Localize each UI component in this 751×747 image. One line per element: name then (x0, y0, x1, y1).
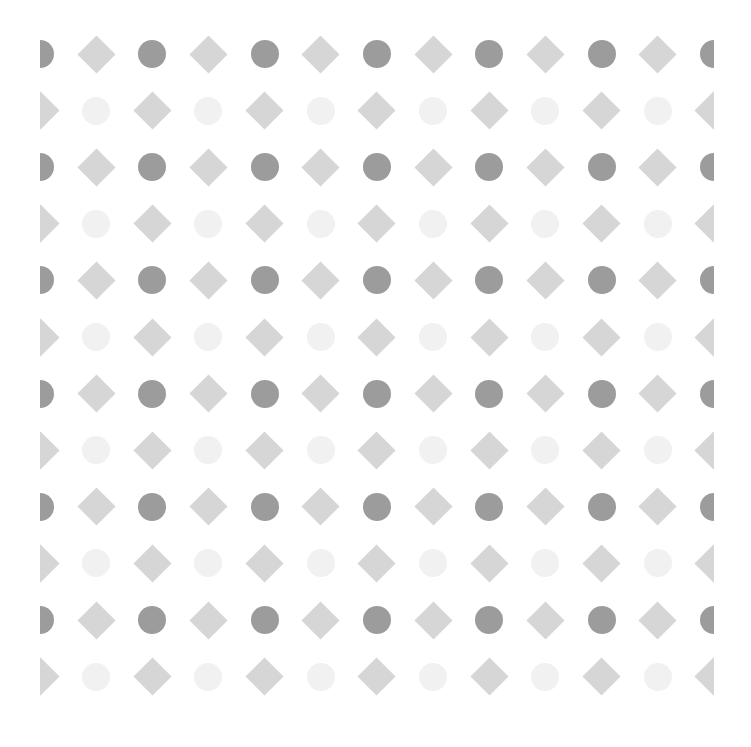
diamond-shape (358, 318, 396, 356)
faint-circle-shape (531, 323, 559, 351)
diamond-shape (40, 431, 59, 469)
diamond-shape (639, 375, 677, 413)
diamond-shape (358, 544, 396, 582)
diamond-shape (358, 205, 396, 243)
dark-circle-shape (475, 153, 503, 181)
diamond-shape (526, 601, 564, 639)
diamond-shape (639, 488, 677, 526)
faint-circle-shape (307, 210, 335, 238)
faint-circle-shape (307, 663, 335, 691)
diamond-shape (582, 318, 620, 356)
dark-circle-shape (251, 493, 279, 521)
diamond-shape (695, 658, 714, 696)
faint-circle-shape (531, 549, 559, 577)
diamond-shape (526, 261, 564, 299)
faint-circle-shape (644, 97, 672, 125)
diamond-shape (189, 601, 227, 639)
diamond-shape (302, 148, 340, 186)
diamond-shape (695, 92, 714, 130)
faint-circle-shape (82, 323, 110, 351)
dark-circle-shape (700, 40, 714, 68)
dark-circle-shape (588, 493, 616, 521)
faint-circle-shape (419, 436, 447, 464)
diamond-shape (582, 544, 620, 582)
dark-circle-shape (40, 606, 54, 634)
faint-circle-shape (307, 436, 335, 464)
diamond-shape (695, 205, 714, 243)
diamond-shape (246, 658, 284, 696)
diamond-shape (470, 92, 508, 130)
dark-circle-shape (138, 266, 166, 294)
dark-circle-shape (363, 266, 391, 294)
diamond-shape (414, 36, 452, 73)
diamond-shape (358, 431, 396, 469)
faint-circle-shape (82, 663, 110, 691)
diamond-shape (77, 375, 115, 413)
diamond-shape (414, 261, 452, 299)
dark-circle-shape (588, 606, 616, 634)
diamond-shape (526, 148, 564, 186)
dark-circle-shape (138, 153, 166, 181)
faint-circle-shape (531, 210, 559, 238)
diamond-shape (189, 261, 227, 299)
dark-circle-shape (588, 380, 616, 408)
diamond-shape (302, 488, 340, 526)
faint-circle-shape (419, 663, 447, 691)
diamond-shape (470, 431, 508, 469)
dark-circle-shape (475, 606, 503, 634)
dark-circle-shape (40, 493, 54, 521)
diamond-shape (246, 544, 284, 582)
faint-circle-shape (82, 436, 110, 464)
diamond-shape (695, 431, 714, 469)
diamond-shape (246, 431, 284, 469)
diamond-shape (358, 658, 396, 696)
diamond-shape (77, 601, 115, 639)
dark-circle-shape (700, 380, 714, 408)
diamond-shape (695, 318, 714, 356)
diamond-shape (302, 36, 340, 73)
diamond-shape (582, 92, 620, 130)
dark-circle-shape (363, 606, 391, 634)
faint-circle-shape (307, 323, 335, 351)
dark-circle-shape (251, 606, 279, 634)
faint-circle-shape (531, 663, 559, 691)
faint-circle-shape (307, 549, 335, 577)
faint-circle-shape (419, 97, 447, 125)
dark-circle-shape (475, 40, 503, 68)
faint-circle-shape (82, 549, 110, 577)
diamond-shape (470, 205, 508, 243)
diamond-shape (302, 601, 340, 639)
diamond-shape (302, 261, 340, 299)
dark-circle-shape (138, 40, 166, 68)
faint-circle-shape (82, 97, 110, 125)
diamond-shape (470, 318, 508, 356)
faint-circle-shape (307, 97, 335, 125)
diamond-shape (470, 544, 508, 582)
diamond-shape (189, 375, 227, 413)
diamond-shape (639, 148, 677, 186)
dark-circle-shape (138, 606, 166, 634)
dark-circle-shape (475, 266, 503, 294)
faint-circle-shape (194, 323, 222, 351)
diamond-shape (582, 658, 620, 696)
diamond-shape (133, 318, 171, 356)
dark-circle-shape (251, 153, 279, 181)
faint-circle-shape (194, 436, 222, 464)
faint-circle-shape (82, 210, 110, 238)
faint-circle-shape (644, 210, 672, 238)
dark-circle-shape (475, 380, 503, 408)
diamond-shape (695, 544, 714, 582)
diamond-shape (189, 488, 227, 526)
dark-circle-shape (138, 493, 166, 521)
dark-circle-shape (363, 153, 391, 181)
diamond-shape (133, 92, 171, 130)
diamond-shape (246, 92, 284, 130)
diamond-shape (133, 544, 171, 582)
diamond-shape (414, 601, 452, 639)
dark-circle-shape (251, 40, 279, 68)
diamond-shape (639, 36, 677, 73)
diamond-shape (414, 488, 452, 526)
dark-circle-shape (138, 380, 166, 408)
diamond-shape (639, 261, 677, 299)
dark-circle-shape (363, 493, 391, 521)
